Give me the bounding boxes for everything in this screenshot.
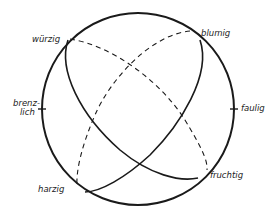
label-blumig: blumig	[201, 29, 230, 38]
label-faulig: faulig	[241, 104, 265, 113]
label-fruchtig: fruchtig	[210, 171, 243, 180]
solid-arc-blumig-harzig	[85, 40, 203, 192]
label-brenz-line2: lich	[20, 108, 35, 117]
label-harzig: harzig	[38, 185, 64, 194]
dashed-arc-blumig-harzig	[77, 31, 190, 186]
outer-sphere-circle	[42, 13, 234, 205]
dashed-arc-wuerzig-fruchtig	[70, 39, 207, 170]
label-wuerzig: würzig	[32, 35, 60, 44]
aroma-sphere-diagram	[0, 0, 276, 214]
solid-arc-wuerzig-fruchtig	[66, 40, 198, 179]
